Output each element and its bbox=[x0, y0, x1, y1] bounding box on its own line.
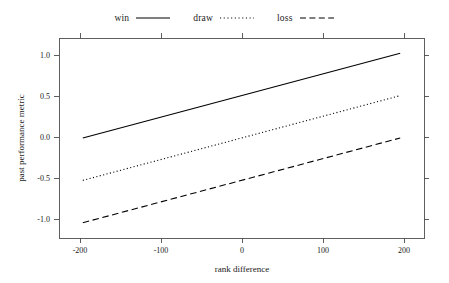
x-axis-title: rank difference bbox=[215, 264, 270, 274]
x-tick-label-4: 200 bbox=[398, 246, 410, 255]
y-axis-title: past performance metric bbox=[16, 94, 26, 181]
y-tick-label-0: 1.0 bbox=[40, 51, 50, 60]
plot-frame bbox=[59, 38, 424, 238]
y-axis-ticks-left bbox=[54, 55, 59, 219]
series-line-win bbox=[83, 53, 400, 138]
x-tick-labels: -200 -100 0 100 200 bbox=[73, 246, 410, 255]
y-axis-ticks-right bbox=[424, 55, 429, 219]
x-tick-label-2: 0 bbox=[240, 246, 244, 255]
y-tick-label-4: -1.0 bbox=[37, 215, 50, 224]
y-tick-label-1: 0.5 bbox=[40, 92, 50, 101]
series-lines bbox=[83, 53, 400, 222]
x-axis-ticks-bottom bbox=[80, 238, 404, 243]
x-tick-label-1: -100 bbox=[154, 246, 169, 255]
x-tick-label-3: 100 bbox=[317, 246, 329, 255]
y-tick-label-3: -0.5 bbox=[37, 174, 50, 183]
chart-figure: win draw loss bbox=[0, 0, 449, 283]
y-tick-labels: 1.0 0.5 0.0 -0.5 -1.0 bbox=[37, 51, 50, 224]
series-line-loss bbox=[83, 138, 400, 223]
plot-canvas: -200 -100 0 100 200 1.0 0.5 0.0 -0.5 -1.… bbox=[0, 0, 449, 283]
series-line-draw bbox=[83, 96, 400, 181]
y-tick-label-2: 0.0 bbox=[40, 133, 50, 142]
x-axis-ticks-top bbox=[80, 33, 404, 38]
x-tick-label-0: -200 bbox=[73, 246, 88, 255]
